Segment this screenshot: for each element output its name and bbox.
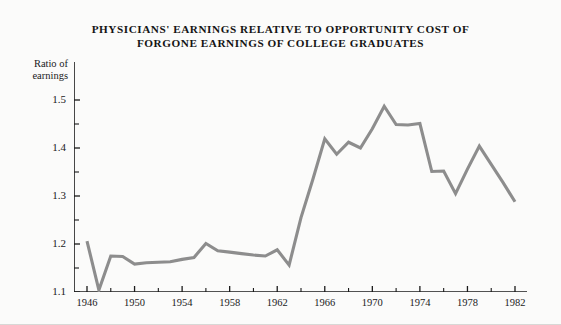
y-axis-tick-label: 1.1: [26, 286, 66, 297]
plot-area: [74, 62, 527, 292]
x-axis-tick-label: 1962: [253, 297, 301, 308]
x-axis-tick-label: 1950: [111, 297, 159, 308]
x-axis-tick-label: 1946: [63, 297, 111, 308]
line-chart-svg: [74, 62, 527, 292]
y-axis-title: Ratio of earnings: [16, 58, 68, 81]
x-axis-tick-label: 1970: [348, 297, 396, 308]
chart-figure: PHYSICIANS' EARNINGS RELATIVE TO OPPORTU…: [0, 0, 561, 325]
x-axis-tick-label: 1966: [301, 297, 349, 308]
x-axis-tick-label: 1974: [396, 297, 444, 308]
x-axis-tick-label: 1954: [158, 297, 206, 308]
x-axis-tick-label: 1958: [206, 297, 254, 308]
x-axis-tick-label: 1982: [491, 297, 539, 308]
page-title: PHYSICIANS' EARNINGS RELATIVE TO OPPORTU…: [0, 22, 561, 50]
y-axis-tick-label: 1.5: [26, 94, 66, 105]
data-series-line: [87, 106, 515, 290]
x-axis-tick-label: 1978: [443, 297, 491, 308]
y-axis-tick-label: 1.2: [26, 238, 66, 249]
y-axis-tick-label: 1.4: [26, 142, 66, 153]
y-axis-tick-label: 1.3: [26, 190, 66, 201]
